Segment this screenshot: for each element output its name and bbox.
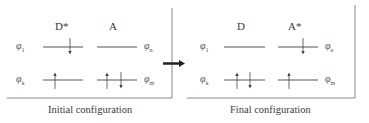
- initial-configuration-caption: Initial configuration: [48, 104, 132, 115]
- spin-down-arrow-icon: [301, 51, 304, 55]
- initial-phi-n-label: φn: [144, 40, 153, 53]
- transition-arrow-icon: [163, 60, 185, 67]
- final-donor-label: D: [237, 20, 245, 32]
- initial-donor-lower-level: [43, 73, 83, 90]
- final-acceptor-lower-level: [278, 73, 318, 90]
- initial-donor-label: D*: [55, 20, 68, 32]
- phi-subscript: k: [22, 80, 25, 86]
- phi-subscript: n: [150, 47, 153, 53]
- phi-subscript: m: [150, 80, 155, 86]
- spin-up-arrow-icon: [53, 73, 56, 77]
- final-acceptor-upper-level: [278, 38, 318, 55]
- initial-acceptor-label: A: [109, 20, 117, 32]
- initial-phi-k-label: φk: [16, 73, 25, 86]
- phi-subscript: 1: [206, 47, 209, 53]
- spin-up-arrow-icon: [287, 73, 290, 77]
- final-phi-1-label: φ1: [200, 40, 209, 53]
- spin-up-arrow-icon: [105, 73, 108, 77]
- final-phi-m-label: φm: [325, 73, 335, 86]
- spin-down-arrow-icon: [248, 85, 251, 89]
- phi-subscript: 1: [22, 47, 25, 53]
- spin-down-arrow-icon: [68, 51, 71, 55]
- final-phi-n-label: φn: [325, 40, 334, 53]
- initial-phi-m-label: φm: [144, 73, 154, 86]
- spin-down-arrow-icon: [119, 85, 122, 89]
- initial-donor-upper-level: [43, 38, 83, 55]
- final-acceptor-label: A*: [288, 20, 301, 32]
- phi-subscript: m: [331, 80, 336, 86]
- phi-subscript: n: [331, 47, 334, 53]
- spin-up-arrow-icon: [235, 73, 238, 77]
- initial-acceptor-lower-level: [97, 72, 137, 89]
- final-phi-k-label: φk: [200, 73, 209, 86]
- phi-subscript: k: [206, 80, 209, 86]
- final-donor-lower-level: [224, 72, 265, 89]
- initial-phi-1-label: φ1: [16, 40, 25, 53]
- final-configuration-caption: Final configuration: [230, 104, 311, 115]
